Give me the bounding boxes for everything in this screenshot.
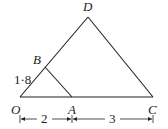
- label-o: O: [11, 102, 21, 117]
- label-b: B: [33, 52, 41, 67]
- label-a: A: [67, 102, 76, 117]
- label-c: C: [148, 102, 157, 117]
- measure-ob: 1·8: [14, 72, 31, 87]
- segment-dc: [88, 17, 153, 97]
- segment-ba: [45, 67, 72, 97]
- label-d: D: [82, 0, 93, 14]
- measure-ac: 3: [109, 111, 116, 126]
- triangle-diagram: D B 1·8 O A C 2 3: [0, 0, 168, 129]
- measure-oa: 2: [41, 111, 48, 126]
